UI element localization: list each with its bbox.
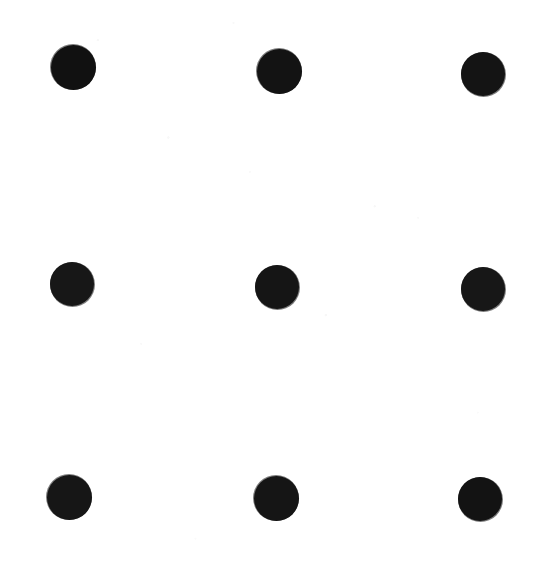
dot-top-left [51, 45, 96, 90]
dot-bottom-left [47, 475, 92, 520]
dot-bottom-right [458, 477, 502, 521]
dot-middle-center [255, 265, 299, 309]
dot-top-right [461, 52, 505, 96]
dot-middle-right [461, 267, 505, 311]
dot-bottom-center [254, 476, 299, 521]
dot-middle-left [50, 262, 94, 306]
nine-dots-figure [0, 0, 543, 573]
dot-top-center [257, 49, 302, 94]
